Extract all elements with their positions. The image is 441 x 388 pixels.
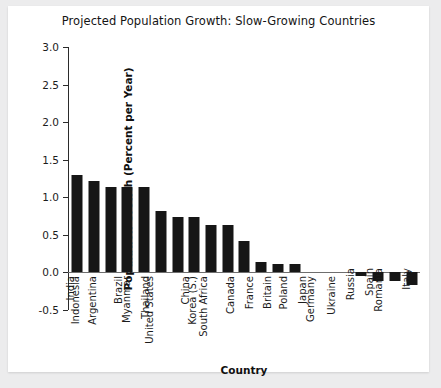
plot-area: Population Growth (Percent per Year) 3.0…: [68, 47, 420, 310]
x-tick-label: South Africa: [197, 276, 208, 337]
x-tick-label: Myanmar: [121, 276, 132, 323]
x-axis-label: Country: [68, 364, 420, 376]
bar-slot[interactable]: China: [186, 47, 203, 310]
y-tick: [63, 272, 68, 273]
bar[interactable]: [289, 264, 300, 272]
x-tick-label: Indonesia: [70, 276, 81, 324]
bar[interactable]: [222, 225, 233, 272]
x-tick-label: Canada: [225, 276, 236, 314]
y-tick: [63, 160, 68, 161]
y-tick: [63, 235, 68, 236]
x-tick-label: Ukraine: [325, 276, 336, 315]
chart-card: Projected Population Growth: Slow-Growin…: [8, 6, 429, 372]
x-tick-label: Germany: [305, 276, 316, 322]
bar-slot[interactable]: United States: [169, 47, 186, 310]
bar-slot[interactable]: Italy: [403, 47, 420, 310]
x-tick-label: United States: [144, 276, 155, 344]
x-tick-label: Italy: [401, 268, 412, 290]
x-tick-label: Argentina: [86, 276, 97, 325]
bar[interactable]: [172, 217, 183, 273]
bar[interactable]: [155, 211, 166, 273]
bar[interactable]: [89, 181, 100, 272]
bar-slot[interactable]: Poland: [286, 47, 303, 310]
chart-title: Projected Population Growth: Slow-Growin…: [8, 14, 429, 28]
bar-slot[interactable]: Britain: [270, 47, 287, 310]
bar[interactable]: [122, 187, 133, 272]
bar-slot[interactable]: Brazil: [119, 47, 136, 310]
y-tick-label: 1.5: [42, 154, 59, 166]
bar[interactable]: [139, 187, 150, 272]
bar[interactable]: [206, 225, 217, 272]
bar-slot[interactable]: Myanmar: [136, 47, 153, 310]
y-tick-label: 2.0: [42, 116, 59, 128]
bar[interactable]: [256, 262, 267, 272]
x-tick-label: Poland: [278, 276, 289, 309]
bar-slot[interactable]: Korea (S.): [203, 47, 220, 310]
y-tick-label: -0.5: [39, 304, 60, 316]
x-tick-label: France: [245, 276, 256, 309]
y-tick-label: 0.0: [42, 266, 59, 278]
bar-slot[interactable]: Indonesia: [86, 47, 103, 310]
x-tick-label: Romania: [373, 268, 384, 312]
y-tick-label: 0.5: [42, 229, 59, 241]
y-tick: [63, 310, 68, 311]
y-tick-label: 2.5: [42, 79, 59, 91]
y-tick: [63, 47, 68, 48]
bar[interactable]: [389, 272, 400, 281]
bar-slot[interactable]: Thailand: [153, 47, 170, 310]
y-tick: [63, 122, 68, 123]
y-tick-label: 3.0: [42, 41, 59, 53]
bar[interactable]: [189, 217, 200, 273]
bar-slot[interactable]: France: [253, 47, 270, 310]
bar[interactable]: [272, 264, 283, 272]
x-tick-label: Russia: [345, 268, 356, 300]
bar-slot[interactable]: Canada: [236, 47, 253, 310]
bar-series: IndiaIndonesiaArgentinaBrazilMyanmarThai…: [69, 47, 420, 310]
x-tick-label: Korea (S.): [187, 276, 198, 325]
y-tick: [63, 197, 68, 198]
bar-slot[interactable]: India: [69, 47, 86, 310]
bar-slot[interactable]: Japan: [303, 47, 320, 310]
bar[interactable]: [105, 187, 116, 272]
bar-slot[interactable]: South Africa: [219, 47, 236, 310]
bar[interactable]: [72, 175, 83, 272]
x-tick-label: Britain: [261, 276, 272, 309]
y-tick-label: 1.0: [42, 191, 59, 203]
bar-slot[interactable]: Argentina: [102, 47, 119, 310]
y-tick: [63, 85, 68, 86]
bar[interactable]: [239, 241, 250, 273]
bar-slot[interactable]: Germany: [320, 47, 337, 310]
